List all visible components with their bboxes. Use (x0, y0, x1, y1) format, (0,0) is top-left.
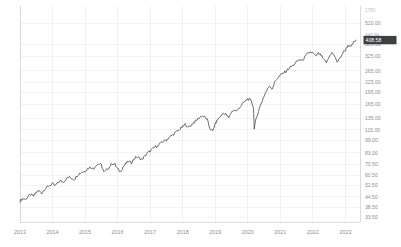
y-axis-tick-label: 70.50 (365, 161, 378, 167)
x-axis-tick-label: 2017 (144, 229, 156, 235)
x-axis-tick-label: 2021 (274, 229, 286, 235)
x-axis-tick-label: 2014 (47, 229, 59, 235)
price-badge-label: 408.58 (366, 37, 382, 43)
chart-canvas: 1750520.00440.94385.00325.00265.00225.00… (0, 0, 401, 247)
x-axis-tick-label: 2015 (79, 229, 91, 235)
x-axis-tick-label: 2013 (14, 229, 26, 235)
y-axis-tick-label: 325.00 (365, 53, 381, 59)
y-axis-tick-label: 99.00 (365, 137, 378, 143)
y-axis-tick-label: 60.50 (365, 172, 378, 178)
y-axis-tick-label: 44.50 (365, 194, 378, 200)
x-axis-tick-label: 2018 (177, 229, 189, 235)
y-axis-tick-label: 195.00 (365, 89, 381, 95)
axis-lines (20, 6, 360, 222)
horizontal-gridlines (20, 23, 360, 217)
x-axis-tick-label: 2023 (339, 229, 351, 235)
y-axis-tick-label: 38.50 (365, 204, 378, 210)
y-axis-tick-label: 1750 (365, 8, 376, 13)
x-axis-tick-label: 2019 (209, 229, 221, 235)
x-axis-labels: 2013201420152016201720182019202020212022… (14, 229, 351, 235)
y-axis-tick-label: 165.00 (365, 101, 381, 107)
x-axis-tick-label: 2020 (242, 229, 254, 235)
y-axis-tick-label: 135.00 (365, 115, 381, 121)
x-axis-tick-label: 2022 (307, 229, 319, 235)
y-axis-tick-label: 115.00 (365, 127, 380, 133)
stock-price-chart: 1750520.00440.94385.00325.00265.00225.00… (0, 0, 401, 247)
y-axis-tick-label: 52.50 (365, 182, 378, 188)
y-axis-tick-label: 225.00 (365, 79, 381, 85)
y-axis-tick-label: 265.00 (365, 68, 381, 74)
price-line (20, 40, 356, 202)
current-price-badge: 408.58 (364, 36, 397, 44)
y-axis-tick-label: 83.00 (365, 150, 378, 156)
y-axis-tick-label: 520.00 (365, 20, 381, 26)
x-axis-tick-label: 2016 (112, 229, 124, 235)
y-axis-tick-label: 33.50 (365, 214, 378, 220)
vertical-gridlines (20, 6, 345, 222)
